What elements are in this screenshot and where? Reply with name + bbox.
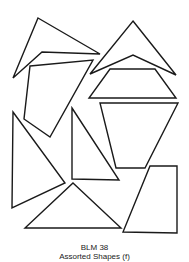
quadrilateral-bottom-right [123,166,177,233]
trapezoid-upper-right [89,69,176,98]
inverted-trapezoid-right [100,103,178,168]
shapes-canvas [0,0,189,262]
dart-top-right [90,21,176,75]
page-subtitle: Assorted Shapes (f) [0,252,189,262]
